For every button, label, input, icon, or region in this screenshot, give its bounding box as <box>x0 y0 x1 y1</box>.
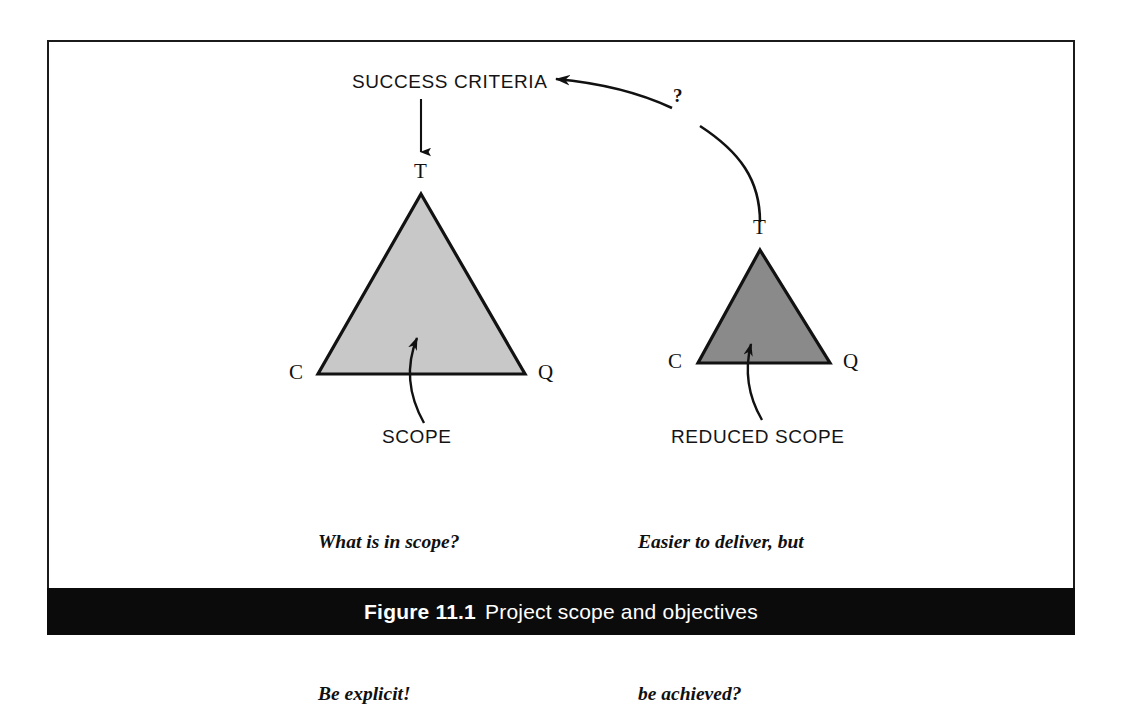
scope-vertex-c-label: C <box>289 362 303 383</box>
reduced-scope-vertex-c-label: C <box>668 351 682 372</box>
figure-caption-bar: Figure 11.1Project scope and objectives <box>47 588 1075 635</box>
figure-caption-title: Project scope and objectives <box>485 600 758 623</box>
scope-note-line: Be explicit! <box>318 681 459 706</box>
reduced-scope-vertex-q-label: Q <box>843 351 858 372</box>
scope-vertex-q-label: Q <box>538 362 553 383</box>
reduced-scope-note-line: be achieved? <box>638 681 804 706</box>
figure-caption-text: Figure 11.1Project scope and objectives <box>364 600 758 624</box>
figure-caption-number: Figure 11.1 <box>364 600 476 623</box>
reduced-scope-vertex-t-label: T <box>753 217 766 238</box>
reduced-scope-note-line: Easier to deliver, but <box>638 529 804 554</box>
figure-border <box>47 40 1075 635</box>
success-criteria-label: SUCCESS CRITERIA <box>352 72 547 91</box>
scope-vertex-t-label: T <box>414 161 427 182</box>
scope-heading-label: SCOPE <box>382 427 452 446</box>
question-mark-label: ? <box>673 86 683 105</box>
reduced-scope-heading-label: REDUCED SCOPE <box>671 427 845 446</box>
scope-note-line: What is in scope? <box>318 529 459 554</box>
